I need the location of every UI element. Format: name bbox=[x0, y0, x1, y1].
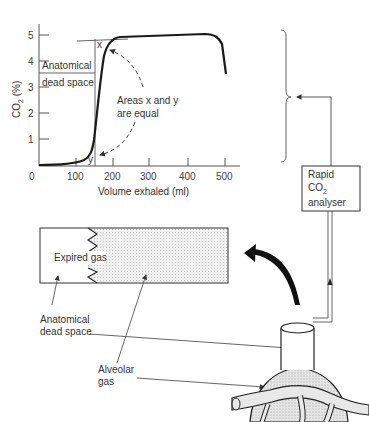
signal-arrow bbox=[297, 97, 331, 166]
expired-gas-tube: Expired gas bbox=[40, 228, 228, 283]
alveolus-illustration bbox=[232, 323, 369, 422]
x-tick-400: 400 bbox=[179, 171, 196, 182]
airway-opening bbox=[281, 323, 314, 333]
x-tick-0: 0 bbox=[29, 171, 35, 182]
expired-gas-label: Expired gas bbox=[54, 252, 107, 263]
rapid-co2-analyser-box: Rapid CO2 analyser bbox=[302, 166, 360, 211]
x-tick-200: 200 bbox=[104, 171, 121, 182]
y-axis-label: CO2 (%) bbox=[11, 81, 24, 118]
graph-dead-space-label-1: Anatomical bbox=[42, 60, 91, 71]
analyser-label-3: analyser bbox=[308, 197, 346, 208]
lung-dead-space-label-1: Anatomical bbox=[40, 314, 89, 325]
area-y-label: y bbox=[88, 154, 93, 165]
x-ticks: 0 100 200 300 400 500 bbox=[29, 158, 233, 182]
x-tick-100: 100 bbox=[67, 171, 84, 182]
graph-dead-space-label-2: dead space bbox=[42, 77, 94, 88]
pointer-dead-space-to-airway bbox=[90, 334, 288, 348]
alveolar-gas-label-1: Alveolar bbox=[98, 364, 135, 375]
brace-icon bbox=[281, 30, 291, 162]
y-tick-2: 2 bbox=[28, 108, 34, 119]
dashed-arrow-to-y bbox=[100, 122, 135, 155]
capillary-end bbox=[232, 398, 240, 410]
y-tick-3: 3 bbox=[28, 82, 34, 93]
y-tick-5: 5 bbox=[28, 30, 34, 41]
co2-dead-space-diagram: 5 4 3 2 1 0 100 200 300 400 500 Volume e… bbox=[0, 0, 369, 422]
lung-dead-space-label-2: dead space bbox=[40, 326, 92, 337]
alveolar-gas-label-2: gas bbox=[98, 376, 114, 387]
dashed-arrow-to-x bbox=[110, 50, 143, 87]
area-x-label: x bbox=[97, 39, 102, 50]
pointer-alveolar-to-tube bbox=[117, 275, 146, 363]
sampling-tube bbox=[313, 211, 333, 322]
plateau-extrapolation-line bbox=[77, 39, 128, 41]
co2-graph: 5 4 3 2 1 0 100 200 300 400 500 Volume e… bbox=[11, 24, 240, 197]
x-axis-label: Volume exhaled (ml) bbox=[98, 186, 189, 197]
areas-equal-note-1: Areas x and y bbox=[117, 95, 178, 106]
areas-equal-note-2: are equal bbox=[117, 108, 159, 119]
y-tick-4: 4 bbox=[28, 56, 34, 67]
svg-text:CO2 (%): CO2 (%) bbox=[11, 81, 24, 118]
bold-curved-arrow bbox=[244, 244, 300, 305]
analyser-label-1: Rapid bbox=[308, 169, 334, 180]
pointer-alveolar-to-alveolus bbox=[137, 378, 264, 387]
x-tick-300: 300 bbox=[140, 171, 157, 182]
x-tick-500: 500 bbox=[216, 171, 233, 182]
y-tick-1: 1 bbox=[28, 134, 34, 145]
